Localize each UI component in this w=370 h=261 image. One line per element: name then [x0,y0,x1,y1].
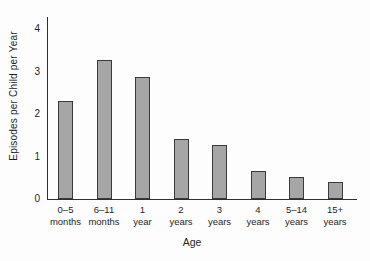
bar-2-years [174,139,189,199]
bar-5-14-years [289,177,304,198]
x-tick-label-15-years: 15+years [303,204,367,227]
bar-1-year [135,77,150,198]
x-axis-title: Age [162,236,222,248]
plot-area [47,17,357,200]
y-tick-label-2: 2 [24,107,40,120]
bar-4-years [251,171,266,199]
bar-6-11-months [97,60,112,198]
bar-0-5-months [58,101,73,199]
bar-chart: Episodes per Child per Year Age 012340–5… [0,0,370,261]
y-axis-title: Episodes per Child per Year [8,31,19,160]
bar-3-years [212,145,227,198]
y-tick-label-3: 3 [24,65,40,78]
x-tick-label-line: 15+ [303,204,367,216]
x-tick-label-line: years [303,216,367,228]
y-tick-label-1: 1 [24,150,40,163]
bar-15-years [328,182,343,199]
y-tick-label-4: 4 [24,22,40,35]
